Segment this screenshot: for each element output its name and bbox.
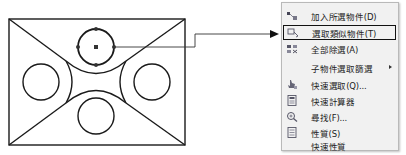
find-icon: [285, 111, 299, 123]
menu-item-deselect-all[interactable]: 全部除選(A): [282, 41, 398, 56]
left-circle[interactable]: [23, 64, 59, 100]
add-to-group-icon: [285, 10, 299, 22]
menu-item-find[interactable]: 尋找(F)...: [282, 109, 398, 124]
context-menu: 加入所選物件(D) 選取類似物件(T) 全部除選(A) 子物件選取篩選 快速選取…: [281, 2, 399, 151]
callout-leader-arrow: [114, 34, 270, 47]
grip-left[interactable]: [76, 45, 80, 49]
menu-item-label: 選取類似物件(T): [312, 27, 376, 39]
menu-item-label: 快速性質: [311, 140, 346, 152]
cad-drawing-canvas[interactable]: [0, 0, 280, 155]
menu-item-label: 快速計算器: [311, 95, 355, 107]
top-arc[interactable]: [66, 61, 126, 74]
menu-item-quick-select[interactable]: 快速選取(Q)...: [282, 77, 398, 92]
left-arc[interactable]: [66, 61, 72, 103]
select-similar-icon: [286, 27, 300, 39]
menu-item-quick-calc[interactable]: 快速計算器: [282, 93, 398, 108]
right-circle[interactable]: [134, 64, 170, 100]
menu-item-label: 子物件選取篩選: [311, 62, 373, 74]
selection-grips[interactable]: [76, 27, 116, 67]
bottom-arc[interactable]: [66, 91, 126, 104]
menu-item-label: 加入所選物件(D): [311, 10, 376, 22]
menu-item-label: 性質(S): [311, 127, 340, 139]
quick-select-icon: [285, 79, 299, 91]
menu-item-subobject-filter[interactable]: 子物件選取篩選: [282, 60, 398, 75]
menu-item-label: 尋找(F)...: [311, 111, 347, 123]
grip-top[interactable]: [94, 27, 98, 31]
menu-item-label: 快速選取(Q)...: [311, 79, 366, 91]
menu-item-add-to-selection[interactable]: 加入所選物件(D): [282, 8, 398, 23]
properties-icon: [285, 127, 299, 139]
diagonal-bottom-left[interactable]: [9, 103, 66, 145]
right-arc[interactable]: [120, 61, 126, 103]
menu-item-properties[interactable]: 性質(S): [282, 125, 398, 140]
menu-item-select-similar[interactable]: 選取類似物件(T): [283, 25, 396, 40]
bottom-circle[interactable]: [78, 98, 114, 134]
diagonal-top-right[interactable]: [126, 19, 185, 61]
diagonal-bottom-right[interactable]: [126, 103, 185, 145]
menu-item-label: 全部除選(A): [311, 43, 358, 55]
grip-bottom[interactable]: [94, 63, 98, 67]
empty-icon-slot: [285, 62, 299, 74]
grip-center[interactable]: [94, 45, 98, 49]
diagonal-top-left[interactable]: [9, 19, 66, 61]
empty-icon-slot: [285, 140, 299, 152]
deselect-all-icon: [285, 43, 299, 55]
submenu-arrow-icon: [389, 65, 392, 69]
arrowhead-icon: [270, 30, 279, 38]
quick-calc-icon: [285, 95, 299, 107]
menu-item-quick-properties[interactable]: 快速性質: [282, 141, 398, 150]
